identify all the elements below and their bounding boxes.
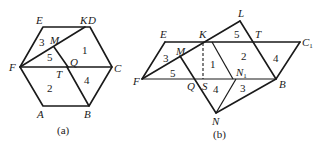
vertex-label-c1: C1 — [302, 36, 313, 50]
vertex-label-t: T — [56, 68, 63, 80]
vertex-label-n1: N1 — [235, 66, 247, 80]
region-label-5-top: 5 — [234, 28, 240, 40]
figure-b: E K L T C1 M F Q S N1 B N 3 5 1 5 2 4 4 … — [132, 7, 313, 141]
edge-c1-b — [276, 42, 300, 79]
vertex-label-s: S — [202, 80, 208, 92]
vertex-label-t: T — [255, 28, 262, 40]
vertex-label-f: F — [132, 75, 140, 87]
vertex-label-d: D — [87, 14, 96, 26]
figure-a: E K D M F Q C T A B 3 5 1 2 4 (a) — [8, 14, 122, 137]
vertex-label-m: M — [175, 45, 186, 57]
region-label-2: 2 — [47, 82, 53, 94]
segment-mq — [54, 47, 68, 67]
region-label-4-bottom: 4 — [213, 83, 219, 95]
region-label-2: 2 — [241, 50, 247, 62]
vertex-label-k: K — [198, 28, 207, 40]
region-label-1: 1 — [82, 44, 88, 56]
vertex-label-m: M — [49, 34, 60, 46]
vertex-label-a: A — [36, 108, 44, 120]
dissection-diagram: E K D M F Q C T A B 3 5 1 2 4 (a) — [0, 0, 321, 150]
region-label-5: 5 — [47, 51, 53, 63]
segment-n-b — [216, 79, 276, 113]
region-label-3: 3 — [39, 36, 45, 48]
segment-f-l — [142, 21, 240, 79]
vertex-label-c: C — [114, 62, 122, 74]
region-label-3-bottom: 3 — [240, 82, 246, 94]
vertex-label-q: Q — [70, 56, 78, 68]
vertex-label-e: E — [35, 14, 43, 26]
vertex-label-k: K — [79, 14, 88, 26]
caption-a: (a) — [57, 124, 70, 137]
caption-b: (b) — [213, 128, 226, 141]
edge-f-e — [142, 42, 165, 79]
vertex-label-l: L — [237, 7, 244, 19]
region-label-4: 4 — [84, 74, 90, 86]
vertex-label-f: F — [8, 61, 16, 73]
region-label-1: 1 — [210, 58, 216, 70]
vertex-label-q: Q — [187, 80, 195, 92]
region-label-3-left: 3 — [163, 52, 169, 64]
segment-tb — [67, 67, 89, 106]
vertex-label-b: B — [279, 78, 286, 90]
vertex-label-e: E — [159, 28, 167, 40]
vertex-label-b: B — [84, 108, 91, 120]
vertex-label-n: N — [211, 115, 220, 127]
region-label-4-right: 4 — [273, 52, 279, 64]
region-label-5-left: 5 — [170, 67, 176, 79]
